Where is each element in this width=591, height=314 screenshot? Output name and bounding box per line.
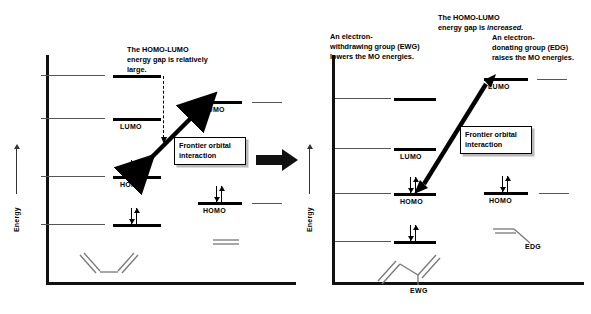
right-edg-label: EDG bbox=[525, 243, 541, 250]
left-gap-pointer bbox=[163, 76, 164, 138]
left-energy-axis-label: Energy bbox=[13, 207, 20, 232]
right-dienophile-orbitals-lumo bbox=[534, 67, 570, 91]
right-diene-orbitals-psi4 bbox=[332, 86, 394, 110]
left-frontier-orbital-callout: Frontier orbital interaction bbox=[174, 137, 246, 165]
right-diene-orbitals-psi2 bbox=[332, 181, 394, 205]
left-diene-level-psi4 bbox=[113, 75, 161, 78]
right-frontier-orbital-callout: Frontier orbital interaction bbox=[460, 126, 532, 154]
right-dienophile-homo-electrons bbox=[500, 176, 510, 192]
right-gap-annotation-emphasis: increased. bbox=[487, 23, 523, 32]
right-panel-substituted: Energy LUMO HOMO bbox=[300, 0, 591, 314]
right-energy-axis-arrow bbox=[309, 148, 310, 194]
right-edg-annotation: An electron- donating group (EDG) raises… bbox=[492, 33, 591, 63]
right-ewg-annotation: An electron- withdrawing group (EWG) low… bbox=[330, 32, 442, 62]
left-diene-orbitals-psi4 bbox=[38, 63, 108, 87]
left-dienophile-orbitals-homo bbox=[249, 191, 285, 215]
right-diene-level-psi1 bbox=[394, 241, 436, 244]
left-gap-annotation: The HOMO-LUMO energy gap is relatively l… bbox=[127, 45, 232, 75]
left-dienophile-orbitals-lumo bbox=[249, 90, 285, 114]
right-dienophile-orbitals-homo bbox=[536, 181, 572, 205]
right-diene-orbitals-psi1 bbox=[332, 229, 394, 253]
right-energy-axis-label: Energy bbox=[306, 207, 313, 232]
right-dienophile-homo-label: HOMO bbox=[489, 197, 512, 204]
left-x-axis bbox=[46, 282, 296, 285]
left-diene-orbitals-psi1 bbox=[38, 212, 108, 236]
right-gap-annotation: The HOMO-LUMO energy gap is increased. bbox=[438, 3, 570, 33]
right-diene-orbitals-psi3 bbox=[332, 136, 394, 160]
left-diene-orbitals-psi3 bbox=[38, 106, 108, 130]
left-panel-unsubstituted: Energy LUMO HOMO bbox=[0, 0, 300, 314]
left-dienophile-homo-electrons bbox=[214, 186, 224, 202]
right-x-axis bbox=[332, 282, 584, 285]
left-energy-axis-arrow bbox=[16, 148, 17, 194]
left-butadiene-structure bbox=[78, 253, 140, 279]
right-ewg-diene-structure bbox=[376, 255, 442, 287]
left-diene-psi1-electrons bbox=[129, 208, 139, 224]
left-diene-homo-label: HOMO bbox=[120, 181, 143, 188]
left-ethylene-structure bbox=[212, 238, 242, 248]
right-ewg-label: EWG bbox=[410, 287, 428, 294]
right-diene-psi1-electrons bbox=[408, 225, 418, 241]
left-dienophile-level-homo bbox=[198, 202, 242, 205]
right-diene-homo-label: HOMO bbox=[400, 198, 423, 205]
transition-arrow bbox=[256, 148, 300, 174]
left-diene-orbitals-psi2 bbox=[38, 164, 108, 188]
left-dienophile-homo-label: HOMO bbox=[203, 207, 226, 214]
left-diene-level-psi1 bbox=[113, 224, 161, 227]
